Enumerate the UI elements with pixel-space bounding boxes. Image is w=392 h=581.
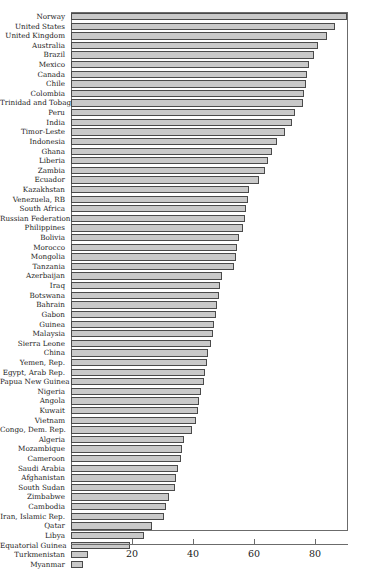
- bar: [71, 455, 181, 462]
- bar-row: [71, 127, 348, 137]
- bar: [71, 13, 347, 20]
- bar-row: [71, 425, 348, 435]
- bar-row: [71, 300, 348, 310]
- bar-row: [71, 185, 348, 195]
- value-axis: 20406080: [71, 531, 348, 571]
- bar-row: [71, 310, 348, 320]
- category-label: Libya: [0, 531, 68, 541]
- bar: [71, 99, 303, 106]
- bar-row: [71, 271, 348, 281]
- category-label: Azerbaijan: [0, 271, 68, 281]
- bar: [71, 349, 208, 356]
- category-label: Ecuador: [0, 175, 68, 185]
- bar-row: [71, 252, 348, 262]
- bar-row: [71, 502, 348, 512]
- bar: [71, 167, 265, 174]
- bar-row: [71, 281, 348, 291]
- bar: [71, 407, 198, 414]
- bar-row: [71, 108, 348, 118]
- bar: [71, 445, 182, 452]
- bar: [71, 292, 219, 299]
- bar: [71, 503, 166, 510]
- bar-row: [71, 329, 348, 339]
- bar-row: [71, 396, 348, 406]
- category-label: Zambia: [0, 166, 68, 176]
- bar-row: [71, 89, 348, 99]
- bar: [71, 484, 175, 491]
- bar-row: [71, 12, 348, 22]
- axis-tick-label: 60: [248, 548, 260, 559]
- bar-row: [71, 214, 348, 224]
- category-label: India: [0, 118, 68, 128]
- axis-tick-label: 80: [309, 548, 321, 559]
- bar-row: [71, 156, 348, 166]
- bar: [71, 196, 248, 203]
- category-label: Myanmar: [0, 560, 68, 570]
- category-label: Equatorial Guinea: [0, 541, 68, 551]
- axis-tick: [132, 539, 133, 545]
- category-label: Congo, Dem. Rep.: [0, 425, 68, 435]
- category-label: Bolivia: [0, 233, 68, 243]
- bar-row: [71, 98, 348, 108]
- bar: [71, 311, 216, 318]
- category-label: Botswana: [0, 291, 68, 301]
- bar-series: [71, 12, 348, 531]
- bar: [71, 369, 205, 376]
- bar: [71, 51, 314, 58]
- bar-row: [71, 358, 348, 368]
- category-label: Qatar: [0, 521, 68, 531]
- category-label: Colombia: [0, 89, 68, 99]
- bar: [71, 378, 204, 385]
- bar-row: [71, 521, 348, 531]
- category-label: Norway: [0, 12, 68, 22]
- bar: [71, 128, 285, 135]
- bar: [71, 224, 243, 231]
- category-label: Sierra Leone: [0, 339, 68, 349]
- category-label: South Sudan: [0, 483, 68, 493]
- category-label: Gabon: [0, 310, 68, 320]
- bar: [71, 417, 196, 424]
- category-label: Iran, Islamic Rep.: [0, 512, 68, 522]
- category-label: Trinidad and Tobago: [0, 98, 68, 108]
- category-label: Canada: [0, 70, 68, 80]
- category-label: Mongolia: [0, 252, 68, 262]
- bar-row: [71, 512, 348, 522]
- category-label: Peru: [0, 108, 68, 118]
- category-label: Papua New Guinea: [0, 377, 68, 387]
- bar: [71, 397, 199, 404]
- category-label: Nigeria: [0, 387, 68, 397]
- bar-row: [71, 464, 348, 474]
- category-label: United Kingdom: [0, 31, 68, 41]
- bar: [71, 321, 214, 328]
- axis-tick: [193, 539, 194, 545]
- category-label: China: [0, 348, 68, 358]
- bar-row: [71, 454, 348, 464]
- bar: [71, 253, 236, 260]
- category-label: Turkmenistan: [0, 550, 68, 560]
- bar: [71, 330, 213, 337]
- category-label: Liberia: [0, 156, 68, 166]
- category-label: Brazil: [0, 50, 68, 60]
- bar: [71, 205, 246, 212]
- category-label: Tanzania: [0, 262, 68, 272]
- bar-row: [71, 320, 348, 330]
- bar-row: [71, 348, 348, 358]
- axis-tick: [254, 539, 255, 545]
- bar: [71, 282, 220, 289]
- bar: [71, 234, 239, 241]
- bar-row: [71, 406, 348, 416]
- bar: [71, 23, 335, 30]
- category-label: Zimbabwe: [0, 492, 68, 502]
- bar: [71, 359, 207, 366]
- category-label: Timor-Leste: [0, 127, 68, 137]
- bar: [71, 340, 211, 347]
- category-label: Saudi Arabia: [0, 464, 68, 474]
- category-label: South Africa: [0, 204, 68, 214]
- bar: [71, 176, 259, 183]
- bar-row: [71, 492, 348, 502]
- bar-row: [71, 435, 348, 445]
- bar: [71, 465, 178, 472]
- bar-row: [71, 41, 348, 51]
- bar-row: [71, 377, 348, 387]
- bar-row: [71, 387, 348, 397]
